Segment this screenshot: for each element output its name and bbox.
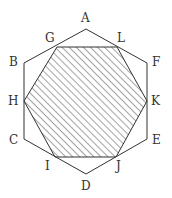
label-b: B [9,55,18,69]
hexagon-diagram: A G L B F H K C E I J D [0,0,172,198]
label-c: C [9,133,18,147]
label-a: A [80,11,90,25]
label-j: J [114,159,121,173]
label-f: F [152,55,160,69]
label-d: D [81,179,91,193]
label-e: E [152,133,161,147]
label-h: H [8,94,18,108]
label-l: L [117,31,125,45]
label-k: K [151,94,161,108]
label-i: I [45,159,50,173]
shaded-hexagon [24,47,147,157]
label-g: G [45,31,55,45]
